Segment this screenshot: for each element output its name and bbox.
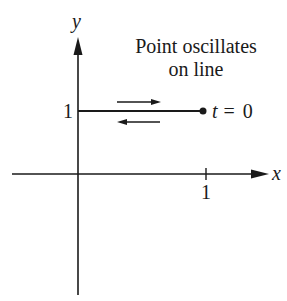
point-time-label: t=0 (212, 100, 253, 122)
y-axis-arrowhead (74, 37, 83, 55)
x-tick-label: 1 (201, 181, 211, 203)
y-axis-label: y (70, 10, 81, 33)
left-arrowhead-icon (117, 119, 127, 125)
point-dot (200, 108, 207, 115)
right-arrowhead-icon (151, 99, 161, 105)
title-line-2: on line (169, 58, 224, 80)
y-tick-label: 1 (63, 100, 73, 122)
x-axis-label: x (271, 162, 281, 184)
x-axis-arrowhead (251, 170, 269, 179)
oscillation-diagram: y x 1 1 Point oscillates on line t=0 (0, 0, 287, 301)
title-line-1: Point oscillates (135, 35, 257, 57)
